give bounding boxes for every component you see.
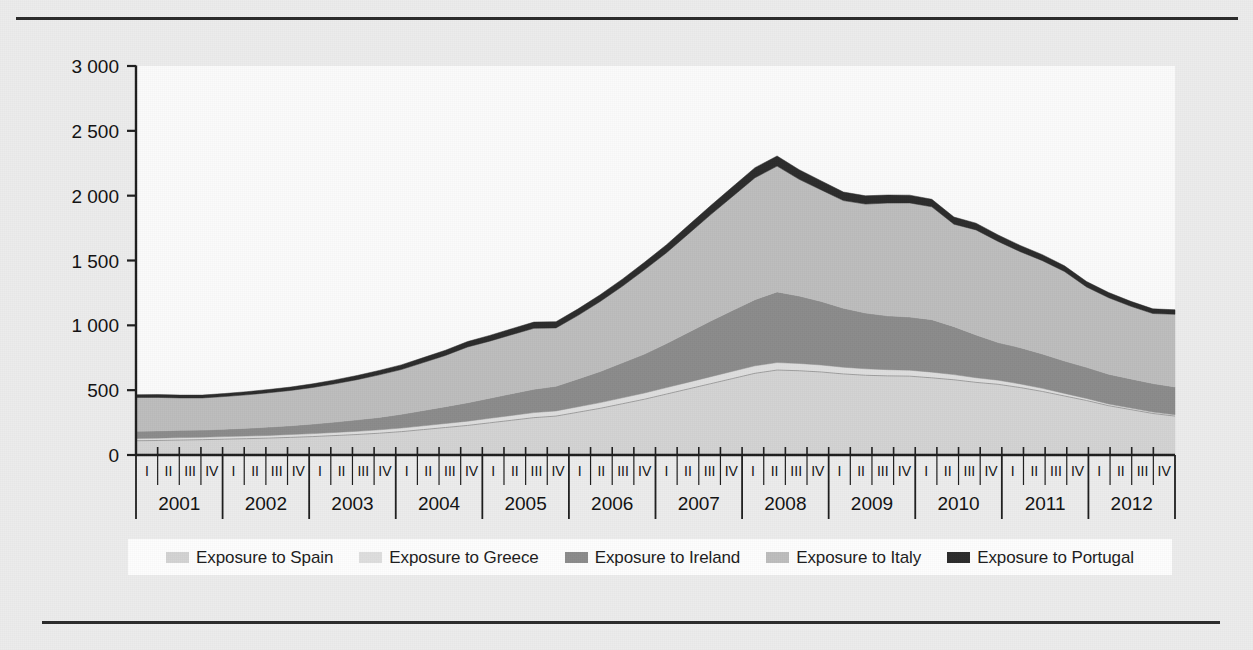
x-year-label: 2012 [1111, 493, 1153, 514]
x-quarter-label: IV [898, 463, 912, 479]
legend-item[interactable]: Exposure to Ireland [565, 549, 741, 566]
x-year-label: 2010 [937, 493, 979, 514]
y-tick-label: 3 000 [71, 56, 119, 77]
x-quarter-label: I [578, 463, 582, 479]
x-quarter-label: IV [292, 463, 306, 479]
legend-swatch-icon [359, 552, 382, 563]
x-quarter-label: II [684, 463, 692, 479]
x-quarter-label: II [857, 463, 865, 479]
x-quarter-label: I [1011, 463, 1015, 479]
x-quarter-label: III [1137, 463, 1149, 479]
x-quarter-label: III [704, 463, 716, 479]
x-year-label: 2011 [1025, 493, 1066, 514]
x-quarter-label: I [405, 463, 409, 479]
x-quarter-label: II [424, 463, 432, 479]
x-year-label: 2002 [245, 493, 287, 514]
legend-item[interactable]: Exposure to Greece [359, 549, 538, 566]
x-quarter-label: II [597, 463, 605, 479]
x-quarter-label: IV [725, 463, 739, 479]
x-quarter-label: I [1097, 463, 1101, 479]
x-quarter-label: II [771, 463, 779, 479]
x-quarter-label: II [511, 463, 519, 479]
x-quarter-label: IV [205, 463, 219, 479]
x-quarter-label: IV [465, 463, 479, 479]
legend-item[interactable]: Exposure to Italy [766, 549, 921, 566]
legend-item-label: Exposure to Ireland [595, 549, 741, 566]
legend-item-label: Exposure to Spain [196, 549, 333, 566]
figure-container: 05001 0001 5002 0002 5003 000IIIIIIIVIII… [0, 0, 1253, 650]
x-quarter-label: II [165, 463, 173, 479]
x-year-label: 2001 [158, 493, 200, 514]
x-year-label: 2005 [504, 493, 546, 514]
legend-item-label: Exposure to Portugal [977, 549, 1134, 566]
x-quarter-label: III [184, 463, 196, 479]
legend-item-label: Exposure to Greece [389, 549, 538, 566]
x-quarter-label: II [1030, 463, 1038, 479]
x-year-label: 2006 [591, 493, 633, 514]
x-quarter-label: III [1050, 463, 1062, 479]
legend-swatch-icon [766, 552, 789, 563]
legend-item-label: Exposure to Italy [796, 549, 921, 566]
x-quarter-label: I [231, 463, 235, 479]
x-quarter-label: I [145, 463, 149, 479]
x-quarter-label: I [751, 463, 755, 479]
x-quarter-label: III [964, 463, 976, 479]
legend-item[interactable]: Exposure to Portugal [947, 549, 1134, 566]
x-quarter-label: II [338, 463, 346, 479]
x-quarter-label: I [838, 463, 842, 479]
x-year-label: 2009 [851, 493, 893, 514]
y-tick-label: 1 000 [71, 315, 119, 336]
legend-swatch-icon [947, 552, 970, 563]
x-quarter-label: II [944, 463, 952, 479]
chart-plot-svg: 05001 0001 5002 0002 5003 000IIIIIIIVIII… [0, 24, 1253, 524]
chart-legend: Exposure to SpainExposure to GreeceExpos… [128, 539, 1172, 575]
x-quarter-label: III [877, 463, 889, 479]
x-quarter-label: IV [638, 463, 652, 479]
x-quarter-label: I [924, 463, 928, 479]
x-year-label: 2004 [418, 493, 461, 514]
x-quarter-label: IV [378, 463, 392, 479]
x-year-label: 2008 [764, 493, 806, 514]
x-quarter-label: IV [811, 463, 825, 479]
x-quarter-label: III [444, 463, 456, 479]
x-quarter-label: I [664, 463, 668, 479]
x-quarter-label: II [1117, 463, 1125, 479]
y-axis-ticks: 05001 0001 5002 0002 5003 000 [71, 56, 136, 466]
legend-item[interactable]: Exposure to Spain [166, 549, 333, 566]
y-tick-label: 2 500 [71, 121, 119, 142]
x-quarter-label: III [790, 463, 802, 479]
x-quarter-label: II [251, 463, 259, 479]
x-quarter-label: IV [551, 463, 565, 479]
x-quarter-label: I [491, 463, 495, 479]
legend-swatch-icon [565, 552, 588, 563]
bottom-rule [42, 621, 1220, 624]
legend-swatch-icon [166, 552, 189, 563]
y-tick-label: 500 [87, 380, 119, 401]
stacked-area-chart: 05001 0001 5002 0002 5003 000IIIIIIIVIII… [0, 24, 1253, 524]
x-quarter-label: III [531, 463, 543, 479]
x-quarter-label: III [357, 463, 369, 479]
x-quarter-label: III [617, 463, 629, 479]
top-rule [16, 17, 1238, 20]
y-tick-label: 0 [108, 445, 119, 466]
x-axis-group: IIIIIIIVIIIIIIIVIIIIIIIVIIIIIIIVIIIIIIIV… [136, 447, 1175, 519]
x-quarter-label: IV [984, 463, 998, 479]
x-year-label: 2007 [678, 493, 720, 514]
x-quarter-label: IV [1158, 463, 1172, 479]
x-quarter-label: I [318, 463, 322, 479]
x-quarter-label: III [271, 463, 283, 479]
y-tick-label: 1 500 [71, 251, 119, 272]
x-quarter-label: IV [1071, 463, 1085, 479]
y-tick-label: 2 000 [71, 186, 119, 207]
x-year-label: 2003 [331, 493, 373, 514]
